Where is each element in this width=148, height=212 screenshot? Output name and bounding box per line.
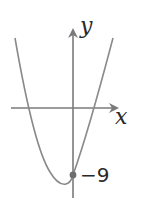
parabola-chart: y x −9 (0, 0, 148, 212)
y-intercept-point (70, 172, 77, 179)
y-intercept-label: −9 (80, 163, 109, 187)
y-axis-label: y (79, 13, 93, 38)
x-axis-label: x (115, 104, 128, 129)
